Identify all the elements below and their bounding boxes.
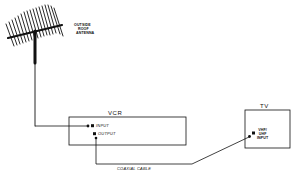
- vcr-box: [69, 117, 186, 145]
- diagram-drawing: [0, 0, 300, 179]
- tv-input-connector-icon: [248, 135, 251, 138]
- tv-input-jack-icon: [252, 132, 255, 135]
- tv-input-label: VHF/ UHF INPUT: [257, 129, 268, 141]
- tv-title: TV: [260, 103, 269, 109]
- roof-antenna-icon: [6, 5, 63, 126]
- coaxial-cable-wire: [96, 137, 249, 164]
- vcr-input-connector-icon: [87, 125, 90, 128]
- tv-input-label-line: INPUT: [257, 137, 268, 141]
- vcr-input-jack-icon: [91, 124, 94, 127]
- vcr-output-label: OUTPUT: [98, 132, 116, 136]
- hookup-diagram: OUTSIDE ROOF ANTENNA VCR INPUT OUTPUT CO…: [0, 0, 300, 179]
- vcr-output-connector-icon: [95, 137, 98, 140]
- vcr-title: VCR: [108, 110, 122, 116]
- vcr-output-jack-icon: [93, 132, 96, 135]
- vcr-input-label: INPUT: [96, 124, 109, 128]
- coaxial-cable-label: COAXIAL CABLE: [117, 167, 151, 171]
- antenna-label: OUTSIDE ROOF ANTENNA: [73, 24, 94, 36]
- antenna-label-line: ANTENNA: [76, 32, 94, 36]
